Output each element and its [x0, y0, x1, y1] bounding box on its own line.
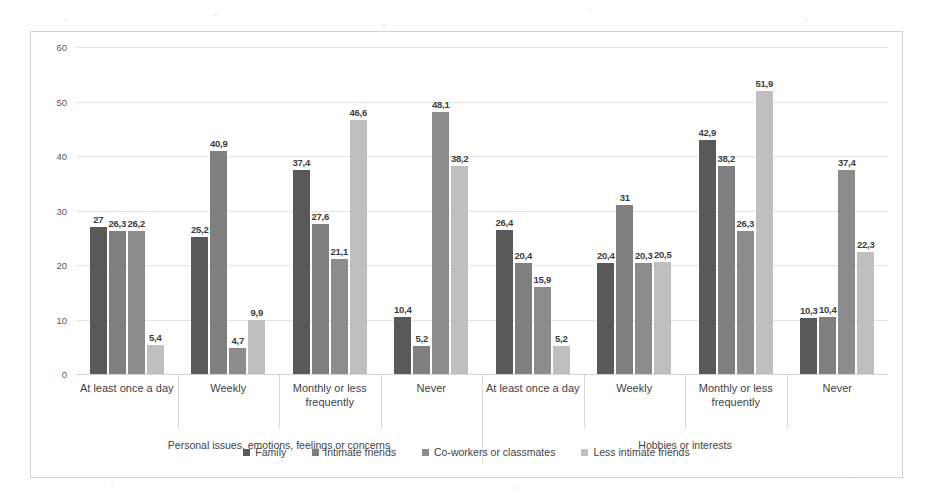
legend-item[interactable]: Intimate friends	[312, 446, 396, 458]
bar[interactable]	[451, 166, 468, 374]
y-axis-tick-label: 0	[62, 369, 67, 380]
bar-value-label: 9,9	[250, 307, 263, 318]
bar[interactable]	[756, 91, 773, 374]
bar-value-label: 5,2	[555, 333, 568, 344]
bar-value-label: 26,4	[495, 217, 513, 228]
plot-area: 01020304050602726,326,25,425,240,94,79,9…	[76, 47, 888, 374]
bar[interactable]	[109, 231, 126, 374]
bar-group: 10,45,248,138,2	[381, 47, 483, 374]
bar-value-label: 22,3	[857, 239, 875, 250]
bar[interactable]	[654, 262, 671, 374]
bar[interactable]	[413, 346, 430, 374]
bar-slot: 4,7	[229, 47, 246, 374]
bar-slot: 31	[616, 47, 633, 374]
category-axis-label: Monthly or less frequently	[685, 381, 787, 409]
bar[interactable]	[857, 252, 874, 374]
legend-label: Family	[255, 446, 286, 458]
bar-slot: 42,9	[699, 47, 716, 374]
chart-frame: 01020304050602726,326,25,425,240,94,79,9…	[30, 31, 903, 478]
bar-value-label: 37,4	[292, 157, 310, 168]
bar[interactable]	[248, 320, 265, 374]
bar-group: 20,43120,320,5	[584, 47, 686, 374]
bar-group: 2726,326,25,4	[76, 47, 178, 374]
legend-label: Intimate friends	[324, 446, 396, 458]
bar[interactable]	[331, 259, 348, 374]
bar[interactable]	[819, 317, 836, 374]
bar[interactable]	[737, 231, 754, 374]
bar[interactable]	[229, 348, 246, 374]
legend-item[interactable]: Co-workers or classmates	[422, 446, 555, 458]
bar-value-label: 38,2	[451, 153, 469, 164]
bar[interactable]	[147, 345, 164, 374]
bar-slot: 9,9	[248, 47, 265, 374]
bar[interactable]	[718, 166, 735, 374]
bar-value-label: 4,7	[231, 335, 244, 346]
bar-slot: 15,9	[534, 47, 551, 374]
bar-slot: 38,2	[451, 47, 468, 374]
bar-slot: 21,1	[331, 47, 348, 374]
category-axis-label: Monthly or less frequently	[279, 381, 381, 409]
bar[interactable]	[293, 170, 310, 374]
y-axis-tick-label: 50	[56, 96, 67, 107]
bar-slot: 37,4	[838, 47, 855, 374]
bar-slot: 20,3	[635, 47, 652, 374]
bar[interactable]	[496, 230, 513, 374]
bar-slot: 10,4	[819, 47, 836, 374]
bar[interactable]	[350, 120, 367, 374]
bar-value-label: 27	[93, 214, 103, 225]
bar-slot: 5,4	[147, 47, 164, 374]
bar-slot: 20,4	[597, 47, 614, 374]
bar-slot: 20,5	[654, 47, 671, 374]
category-axis-label: At least once a day	[482, 381, 584, 395]
axis-separator	[178, 374, 179, 429]
axis-separator	[584, 374, 585, 429]
bar[interactable]	[635, 263, 652, 374]
bar[interactable]	[515, 263, 532, 374]
axis-separator	[279, 374, 280, 429]
bar[interactable]	[191, 237, 208, 374]
axis-separator	[685, 374, 686, 429]
bar-value-label: 46,6	[349, 107, 367, 118]
bar-value-label: 27,6	[311, 211, 329, 222]
bar-slot: 20,4	[515, 47, 532, 374]
bar-slot: 22,3	[857, 47, 874, 374]
bar-value-label: 40,9	[210, 138, 228, 149]
legend-swatch-icon	[422, 449, 429, 456]
legend-swatch-icon	[243, 449, 250, 456]
bar-value-label: 26,3	[736, 218, 754, 229]
bar-group: 26,420,415,95,2	[482, 47, 584, 374]
bar-value-label: 10,3	[800, 305, 818, 316]
bar[interactable]	[838, 170, 855, 374]
y-axis-tick-label: 20	[56, 260, 67, 271]
bar[interactable]	[553, 346, 570, 374]
legend-item[interactable]: Family	[243, 446, 286, 458]
bar-value-label: 48,1	[432, 99, 450, 110]
bar-slot: 10,4	[394, 47, 411, 374]
category-axis-label: Weekly	[178, 381, 280, 395]
bar[interactable]	[312, 224, 329, 374]
bar[interactable]	[616, 205, 633, 374]
bar[interactable]	[128, 231, 145, 374]
category-axis-label: Weekly	[584, 381, 686, 395]
bar-slot: 5,2	[553, 47, 570, 374]
bar[interactable]	[534, 287, 551, 374]
bar-slot: 26,4	[496, 47, 513, 374]
bar[interactable]	[800, 318, 817, 374]
bar[interactable]	[90, 227, 107, 374]
bar-value-label: 20,4	[597, 250, 615, 261]
bar-value-label: 10,4	[819, 304, 837, 315]
bar-slot: 46,6	[350, 47, 367, 374]
bar[interactable]	[699, 140, 716, 374]
bar-slot: 10,3	[800, 47, 817, 374]
bar[interactable]	[210, 151, 227, 374]
legend-item[interactable]: Less intimate friends	[581, 446, 689, 458]
bar-value-label: 5,4	[149, 332, 162, 343]
bar[interactable]	[432, 112, 449, 374]
bar-value-label: 5,2	[415, 333, 428, 344]
category-axis: At least once a dayWeeklyMonthly or less…	[76, 374, 888, 429]
bar-slot: 26,3	[737, 47, 754, 374]
bar-slot: 38,2	[718, 47, 735, 374]
bar[interactable]	[597, 263, 614, 374]
bar-slot: 25,2	[191, 47, 208, 374]
bar[interactable]	[394, 317, 411, 374]
